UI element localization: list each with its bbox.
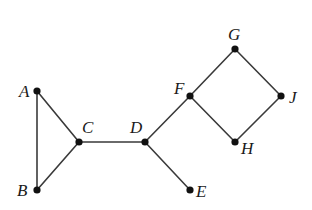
node-label-h: H bbox=[240, 139, 255, 158]
node-label-a: A bbox=[18, 82, 30, 101]
node-f bbox=[186, 92, 193, 99]
edge-b-c bbox=[37, 142, 79, 190]
node-label-f: F bbox=[173, 79, 185, 98]
edge-d-e bbox=[145, 142, 190, 190]
node-label-e: E bbox=[195, 182, 207, 201]
edge-j-h bbox=[235, 96, 281, 142]
graph-diagram: ABCDEFGJH bbox=[0, 0, 312, 210]
labels-layer: ABCDEFGJH bbox=[17, 25, 298, 201]
graph-canvas: ABCDEFGJH bbox=[0, 0, 312, 210]
node-h bbox=[231, 138, 238, 145]
edge-g-j bbox=[235, 49, 281, 96]
edge-f-g bbox=[190, 49, 235, 96]
node-d bbox=[141, 138, 148, 145]
node-label-j: J bbox=[289, 88, 298, 107]
node-label-g: G bbox=[228, 25, 240, 44]
node-e bbox=[186, 186, 193, 193]
node-label-b: B bbox=[17, 181, 28, 200]
node-a bbox=[33, 87, 40, 94]
node-j bbox=[277, 92, 284, 99]
node-g bbox=[231, 45, 238, 52]
edge-h-f bbox=[190, 96, 235, 142]
nodes-layer bbox=[33, 45, 284, 193]
node-c bbox=[75, 138, 82, 145]
edges-layer bbox=[37, 49, 281, 190]
edge-d-f bbox=[145, 96, 190, 142]
node-label-d: D bbox=[129, 118, 143, 137]
node-b bbox=[33, 186, 40, 193]
node-label-c: C bbox=[82, 118, 94, 137]
edge-a-c bbox=[37, 91, 79, 142]
